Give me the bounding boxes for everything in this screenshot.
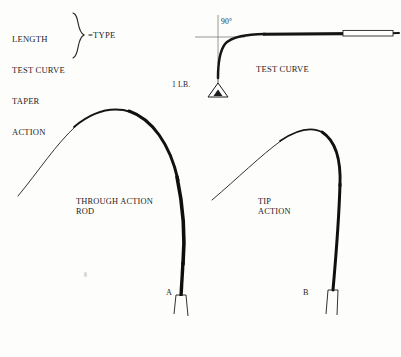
tip-action-rod-diagram xyxy=(212,130,340,315)
legend-item-test-curve: TEST CURVE xyxy=(12,65,65,75)
caption-line-1: THROUGH ACTION xyxy=(76,197,153,206)
rod-fork-butt-icon xyxy=(174,295,188,316)
marker-label-a: A xyxy=(166,288,172,298)
rod-action-comparison xyxy=(0,100,401,357)
caption-test-curve: TEST CURVE xyxy=(256,64,309,74)
scan-speck xyxy=(84,272,87,277)
caption-line-2: ACTION xyxy=(258,207,291,216)
rod-grip-outline-icon xyxy=(343,30,393,36)
diagram-page: LENGTH TEST CURVE TAPER ACTION =TYPE 90° xyxy=(0,0,401,357)
legend-item-length: LENGTH xyxy=(12,34,65,44)
weight-label-1lb: 1 LB. xyxy=(172,81,190,90)
caption-line-2: ROD xyxy=(76,207,94,216)
test-curve-diagram xyxy=(185,12,401,102)
angle-label-90: 90° xyxy=(221,18,232,27)
caption-tip-action: TIP ACTION xyxy=(258,197,291,217)
marker-label-b: B xyxy=(303,288,309,298)
caption-through-action-rod: THROUGH ACTION ROD xyxy=(76,197,153,217)
caption-line-1: TIP xyxy=(258,197,271,206)
legend-type-result: =TYPE xyxy=(88,30,115,40)
rod-fork-butt-icon xyxy=(326,290,338,315)
triangle-weight-icon xyxy=(208,83,228,97)
